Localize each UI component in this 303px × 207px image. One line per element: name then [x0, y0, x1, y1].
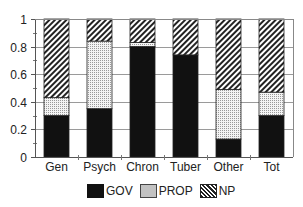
gridlines: [35, 20, 293, 158]
bar-segment-prop: [87, 41, 112, 109]
bar-segment-gov: [130, 47, 155, 157]
x-tick-label: Tot: [263, 160, 280, 174]
x-tick-label: Gen: [45, 160, 68, 174]
legend-label-np: NP: [219, 184, 236, 198]
legend-item-gov: GOV: [87, 184, 133, 198]
bar-segment-np: [44, 19, 69, 98]
y-tick-label: 0.4: [10, 96, 27, 110]
x-tick-label: Psych: [83, 160, 116, 174]
legend-item-prop: PROP: [140, 184, 193, 198]
bar-segment-gov: [216, 139, 241, 157]
y-tick-label: 0: [20, 151, 27, 165]
bar-segment-np: [130, 19, 155, 42]
bar-segment-np: [173, 19, 198, 55]
stacked-bar-chart: 00.20.40.60.81GenPsychChronTuberOtherTot: [0, 0, 303, 180]
bars: [44, 19, 284, 157]
bar-segment-prop: [130, 42, 155, 46]
bar-segment-gov: [44, 116, 69, 157]
legend-item-np: NP: [200, 184, 236, 198]
y-tick-label: 1: [20, 13, 27, 27]
bar-segment-gov: [259, 116, 284, 157]
x-tick-label: Chron: [126, 160, 159, 174]
y-tick-label: 0.8: [10, 41, 27, 55]
y-tick-label: 0.2: [10, 123, 27, 137]
bar-segment-prop: [259, 92, 284, 115]
legend-label-gov: GOV: [106, 184, 133, 198]
bar-segment-np: [216, 19, 241, 89]
x-tick-label: Other: [213, 160, 243, 174]
bar-segment-prop: [44, 98, 69, 116]
prop-swatch-icon: [140, 184, 157, 198]
legend-label-prop: PROP: [159, 184, 193, 198]
bar-segment-np: [87, 19, 112, 41]
bar-segment-gov: [87, 109, 112, 157]
y-tick-label: 0.6: [10, 68, 27, 82]
legend: GOV PROP NP: [87, 184, 242, 198]
bar-segment-gov: [173, 55, 198, 157]
bar-segment-prop: [216, 89, 241, 139]
x-tick-label: Tuber: [170, 160, 201, 174]
bar-segment-np: [259, 19, 284, 92]
np-swatch-icon: [200, 184, 217, 198]
gov-swatch-icon: [87, 184, 104, 198]
